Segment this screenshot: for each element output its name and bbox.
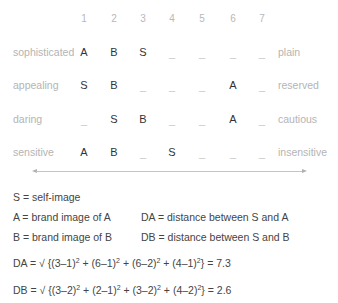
- exponent: 2: [156, 257, 160, 264]
- exponent: 2: [157, 284, 161, 291]
- scale-cell: _: [225, 47, 241, 59]
- exponent: 2: [116, 257, 120, 264]
- right-pole-label: cautious: [278, 113, 317, 125]
- scale-cell: S: [76, 79, 92, 91]
- scale-cell: S: [164, 146, 180, 158]
- formula-term: (6–2): [132, 257, 157, 269]
- scale-cell: S: [106, 113, 122, 125]
- scale-cell: _: [254, 47, 270, 59]
- legend-brand-a: A = brand image of A: [13, 211, 111, 223]
- scale-cell: _: [254, 114, 270, 126]
- scale-cell: B: [106, 79, 122, 91]
- scale-cell: B: [135, 113, 151, 125]
- scale-cell: _: [194, 147, 210, 159]
- exponent: 2: [76, 257, 80, 264]
- exponent: 2: [117, 284, 121, 291]
- column-number: 5: [194, 13, 210, 24]
- scale-cell: _: [225, 147, 241, 159]
- legend-distance-a: DA = distance between S and A: [141, 211, 288, 223]
- left-pole-label: sophisticated: [13, 46, 74, 58]
- scale-cell: _: [194, 80, 210, 92]
- scale-cell: _: [164, 47, 180, 59]
- scale-cell: B: [106, 46, 122, 58]
- column-number: 3: [135, 13, 151, 24]
- scale-cell: _: [135, 147, 151, 159]
- scale-cell: A: [76, 146, 92, 158]
- scale-cell: _: [254, 147, 270, 159]
- formula-da: DA = √ {(3–1)2 + (6–1)2 + (6–2)2 + (4–1)…: [13, 257, 231, 269]
- scale-cell: _: [135, 80, 151, 92]
- formula-term: (3–2): [133, 284, 158, 296]
- column-number: 2: [106, 13, 122, 24]
- legend-distance-b: DB = distance between S and B: [141, 231, 290, 243]
- scale-cell: A: [225, 113, 241, 125]
- arrow-right-icon: [302, 169, 307, 173]
- scale-cell: A: [76, 46, 92, 58]
- formula-db: DB = √ {(3–2)2 + (2–1)2 + (3–2)2 + (4–2)…: [13, 284, 231, 296]
- formula-term: (2–1): [92, 284, 117, 296]
- column-number: 6: [225, 13, 241, 24]
- scale-cell: _: [164, 114, 180, 126]
- scale-cell: _: [194, 47, 210, 59]
- legend-self-image: S = self-image: [13, 191, 80, 203]
- formula-result: } = 2.6: [201, 284, 231, 296]
- arrow-line: [36, 171, 302, 172]
- formula-term: (4–1): [172, 257, 197, 269]
- formula-term: (4–2): [173, 284, 198, 296]
- scale-cell: _: [254, 80, 270, 92]
- formula-term: (3–1): [51, 257, 76, 269]
- column-number: 7: [254, 13, 270, 24]
- scale-cell: _: [76, 114, 92, 126]
- left-pole-label: daring: [13, 113, 42, 125]
- scale-cell: _: [194, 114, 210, 126]
- formula-term: (6–1): [92, 257, 117, 269]
- formula-term: (3–2): [52, 284, 77, 296]
- legend-brand-b: B = brand image of B: [13, 231, 112, 243]
- exponent: 2: [76, 284, 80, 291]
- formula-prefix: DB = √ {: [13, 284, 52, 296]
- formula-result: } = 7.3: [201, 257, 231, 269]
- right-pole-label: reserved: [278, 79, 319, 91]
- scale-cell: B: [106, 146, 122, 158]
- right-pole-label: plain: [278, 46, 300, 58]
- formula-prefix: DA = √ {: [13, 257, 51, 269]
- scale-cell: A: [225, 79, 241, 91]
- scale-cell: _: [164, 80, 180, 92]
- scale-cell: S: [135, 46, 151, 58]
- right-pole-label: insensitive: [278, 146, 327, 158]
- left-pole-label: sensitive: [13, 146, 54, 158]
- column-number: 4: [164, 13, 180, 24]
- column-number: 1: [76, 13, 92, 24]
- left-pole-label: appealing: [13, 79, 59, 91]
